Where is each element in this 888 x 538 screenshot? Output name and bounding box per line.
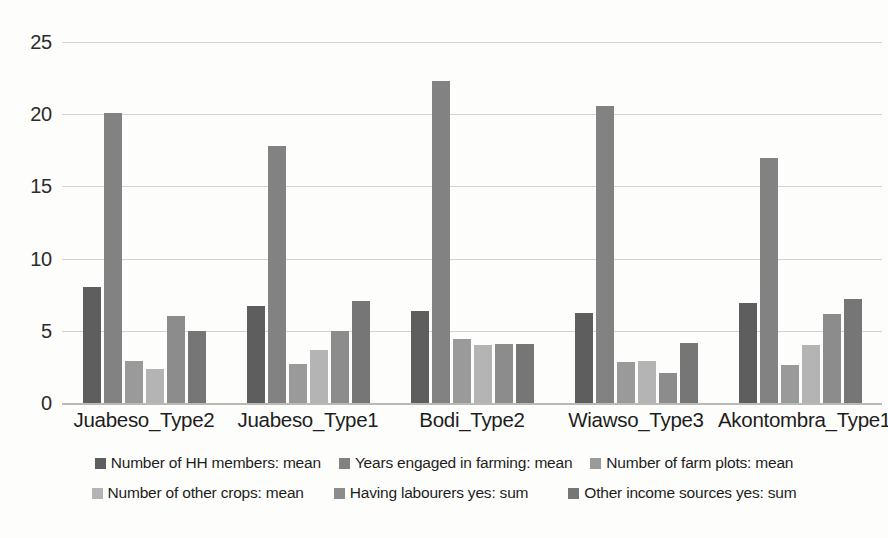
bar	[516, 344, 534, 403]
bar	[781, 365, 799, 403]
y-tick-label-15: 15	[8, 175, 52, 198]
legend-label: Other income sources yes: sum	[584, 484, 796, 502]
legend-swatch-icon	[590, 458, 601, 469]
bar	[352, 301, 370, 403]
legend-swatch-icon	[339, 458, 350, 469]
bar	[331, 331, 349, 403]
legend-item: Number of farm plots: mean	[590, 454, 793, 472]
bar	[575, 313, 593, 403]
bar	[188, 331, 206, 403]
x-tick-label: Bodi_Type2	[390, 408, 554, 432]
legend-label: Years engaged in farming: mean	[355, 454, 572, 472]
y-tick-label-10: 10	[8, 247, 52, 270]
axis-baseline	[62, 403, 882, 405]
bar	[125, 361, 143, 403]
bar-group	[226, 42, 390, 403]
bar-group	[718, 42, 882, 403]
bar-group	[554, 42, 718, 403]
plot-area	[62, 42, 882, 403]
bar-group	[390, 42, 554, 403]
legend-swatch-icon	[568, 488, 579, 499]
bar	[474, 345, 492, 403]
bar-chart: 0510152025 Juabeso_Type2Juabeso_Type1Bod…	[0, 0, 888, 538]
bar	[268, 146, 286, 403]
bar	[453, 339, 471, 403]
bar	[495, 344, 513, 403]
x-tick-label: Akontombra_Type1	[718, 408, 882, 432]
bar	[247, 306, 265, 403]
bar	[411, 311, 429, 403]
legend-item: Number of HH members: mean	[95, 454, 321, 472]
chart-legend: Number of HH members: meanYears engaged …	[0, 448, 888, 508]
legend-item: Other income sources yes: sum	[568, 484, 796, 502]
legend-label: Having labourers yes: sum	[350, 484, 529, 502]
y-tick-label-20: 20	[8, 103, 52, 126]
legend-row-1: Number of HH members: meanYears engaged …	[0, 448, 888, 478]
bar	[617, 362, 635, 403]
bar	[802, 345, 820, 403]
bar	[760, 158, 778, 403]
bar	[739, 303, 757, 403]
bar	[680, 343, 698, 403]
legend-item: Having labourers yes: sum	[334, 484, 529, 502]
bar	[638, 361, 656, 403]
bar-group	[62, 42, 226, 403]
bar	[310, 350, 328, 403]
bar	[146, 369, 164, 403]
bar	[83, 287, 101, 403]
legend-swatch-icon	[334, 488, 345, 499]
legend-label: Number of farm plots: mean	[606, 454, 793, 472]
y-tick-label-0: 0	[8, 392, 52, 415]
bar	[596, 106, 614, 403]
legend-item: Years engaged in farming: mean	[339, 454, 572, 472]
y-tick-label-25: 25	[8, 31, 52, 54]
legend-swatch-icon	[92, 488, 103, 499]
x-tick-label: Juabeso_Type1	[226, 408, 390, 432]
x-tick-label: Juabeso_Type2	[62, 408, 226, 432]
legend-swatch-icon	[95, 458, 106, 469]
x-tick-label: Wiawso_Type3	[554, 408, 718, 432]
bar	[823, 314, 841, 403]
y-tick-label-5: 5	[8, 319, 52, 342]
x-axis-labels: Juabeso_Type2Juabeso_Type1Bodi_Type2Wiaw…	[62, 408, 882, 440]
bar	[104, 113, 122, 403]
legend-label: Number of HH members: mean	[111, 454, 321, 472]
bar	[167, 316, 185, 403]
bar	[289, 364, 307, 403]
legend-row-2: Number of other crops: meanHaving labour…	[0, 478, 888, 508]
legend-item: Number of other crops: mean	[92, 484, 304, 502]
bar	[432, 81, 450, 403]
bar	[844, 299, 862, 403]
y-axis: 0510152025	[0, 42, 52, 403]
bar	[659, 373, 677, 403]
legend-label: Number of other crops: mean	[108, 484, 304, 502]
